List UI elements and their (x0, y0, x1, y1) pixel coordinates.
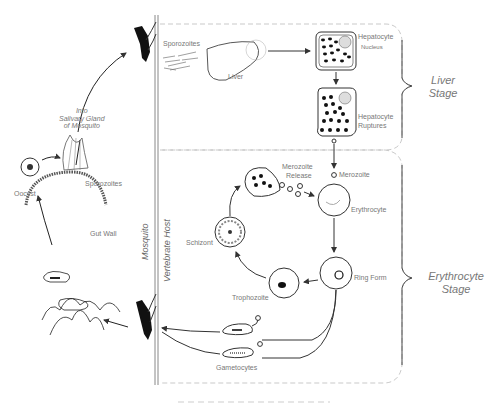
merozoite-icon (332, 173, 337, 178)
mosquito-top-icon (134, 22, 156, 62)
hepatocyte-ruptures-label-2: Ruptures (358, 122, 386, 130)
trophozoite-label: Trophozoite (232, 294, 269, 302)
gametocytes-label: Gametocytes (216, 364, 257, 372)
oocyst-label: Oocyst (14, 190, 36, 198)
merozoite-release-label-2: Release (286, 172, 312, 180)
erythrocyte-stage-box (160, 150, 412, 383)
hepatocyte-ruptures-label-1: Hepatocyte (358, 113, 393, 121)
liver-stage-line2: Stage (429, 87, 458, 99)
ring-form-icon (320, 257, 352, 289)
schizont-icon (215, 217, 245, 247)
hepatocyte-icon (316, 32, 356, 70)
erythrocyte-label: Erythrocyte (351, 206, 386, 214)
salivary-gland-label: Into Salivary Gland of Mosquito (59, 107, 105, 130)
erythrocyte-stage-label: ErythrocyteStage (418, 270, 494, 295)
schizont-label: Schizont (186, 239, 213, 247)
liver-sporozoites-label: Sporozoites (163, 40, 200, 48)
gut-wall-label: Gut Wall (90, 230, 117, 238)
nucleus-label: Nucleus (361, 44, 383, 51)
liver-stage-line1: Liver (431, 74, 455, 86)
mosquito-host-label: Mosquito (140, 223, 150, 260)
merozoite-release-label-1: Merozoite (282, 163, 313, 171)
arrow-gametocytes-to-mosquito (162, 328, 220, 332)
mosquito-gut-icon (42, 271, 120, 335)
trophozoite-icon (269, 268, 299, 298)
host-divider (155, 15, 158, 385)
hepatocyte-label: Hepatocyte (358, 33, 393, 41)
liver-stage-label: LiverStage (418, 74, 468, 99)
gametocytes-icon (223, 316, 263, 358)
merozoite-label: Merozoite (339, 171, 370, 179)
hepatocyte-rupturing-icon (318, 88, 357, 143)
erythrocyte-stage-line1: Erythrocyte (428, 270, 484, 282)
erythrocyte-stage-line2: Stage (442, 283, 471, 295)
arrow-mosquito-to-gut (104, 320, 128, 327)
mosquito-bottom-icon (136, 294, 156, 340)
mosquito-sporozoites-label: Sporozoites (85, 180, 122, 188)
vertebrate-host-label: Vertebrate Host (162, 219, 172, 282)
sporozoites-icon (163, 52, 198, 70)
ring-form-label: Ring Form (354, 274, 387, 282)
erythrocyte-icon (318, 184, 350, 216)
life-cycle-diagram (0, 0, 504, 410)
arrow-to-oocyst (38, 196, 52, 245)
liver-label: Liver (228, 73, 243, 81)
